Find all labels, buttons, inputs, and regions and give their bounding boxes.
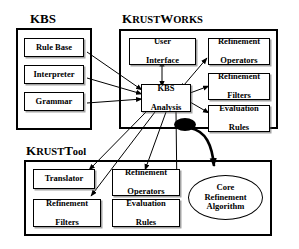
node-refinement-operators[interactable]: RefinementOperators	[208, 38, 270, 65]
group-title-kbs: KBS	[30, 10, 56, 26]
group-title-krustworks: KRUSTWORKS	[122, 10, 203, 26]
node-tool-refinement-operators[interactable]: RefinementOperators	[112, 169, 180, 196]
node-tool-evaluation-rules[interactable]: EvaluationRules	[112, 199, 180, 227]
architecture-diagram: KBS Rule Base Interpreter Grammar KRUSTW…	[0, 0, 299, 249]
node-grammar[interactable]: Grammar	[24, 92, 84, 111]
connector-blob	[174, 118, 196, 131]
node-translator[interactable]: Translator	[33, 169, 95, 189]
node-rule-base[interactable]: Rule Base	[24, 38, 84, 57]
node-kbs-analysis[interactable]: KBSAnalysis	[141, 84, 191, 112]
group-title-krusttool: KRUSTTool	[26, 142, 86, 158]
node-tool-refinement-filters[interactable]: RefinementFilters	[33, 199, 101, 227]
node-user-interface[interactable]: UserInterface	[129, 38, 196, 65]
node-refinement-filters[interactable]: RefinementFilters	[208, 73, 270, 100]
node-core-refinement-algorithm[interactable]: CoreRefinementAlgorithm	[188, 175, 263, 220]
node-evaluation-rules[interactable]: EvaluationRules	[208, 105, 270, 132]
node-interpreter[interactable]: Interpreter	[24, 65, 84, 84]
